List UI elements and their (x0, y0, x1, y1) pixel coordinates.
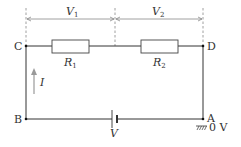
circuit-diagram: V1 V2 R1 R2 V C D B A 0 V I (0, 0, 241, 147)
current-arrow-icon (31, 68, 37, 94)
node-label-c: C (14, 40, 22, 53)
resistor-r1 (52, 40, 89, 53)
node-c (25, 45, 28, 48)
current-label: I (39, 76, 45, 89)
resistor-label-r2: R2 (152, 56, 166, 70)
resistor-r2 (141, 40, 178, 53)
node-label-d: D (207, 40, 216, 53)
ground-icon (196, 126, 207, 130)
ground-label: 0 V (209, 121, 228, 134)
node-d (202, 45, 205, 48)
battery-icon (112, 110, 117, 128)
source-label: V (110, 127, 119, 140)
node-b (25, 118, 28, 121)
node-a (202, 118, 205, 121)
voltage-label-v1: V1 (66, 5, 78, 19)
node-label-b: B (14, 113, 22, 126)
resistor-label-r1: R1 (63, 56, 77, 70)
voltage-label-v2: V2 (152, 5, 164, 19)
